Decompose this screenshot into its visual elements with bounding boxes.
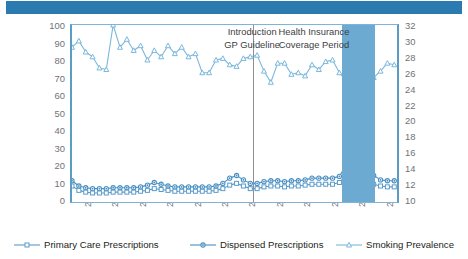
y-tick-left: 10 (39, 178, 65, 189)
annotation-insurance-line2: Coverage Period (264, 39, 364, 52)
y-tick-right: 30 (405, 36, 431, 47)
y-tick-left: 0 (39, 195, 65, 206)
y-tick-right: 22 (405, 100, 431, 111)
chart-legend: Primary Care PrescriptionsDispensed Pres… (0, 236, 468, 256)
annotation-insurance-line1: Health Insurance (264, 26, 364, 39)
y-tick-left: 70 (39, 73, 65, 84)
y-tick-left: 90 (39, 38, 65, 49)
legend-marker-square (14, 240, 40, 250)
y-tick-left: 50 (39, 108, 65, 119)
y-tick-left: 60 (39, 90, 65, 101)
y-tick-left: 40 (39, 125, 65, 136)
y-tick-right: 14 (405, 163, 431, 174)
legend-label: Smoking Prevalence (366, 239, 454, 250)
y-tick-right: 20 (405, 115, 431, 126)
legend-marker-triangle (336, 240, 362, 250)
y-tick-left: 20 (39, 160, 65, 171)
legend-marker-circle (190, 240, 216, 250)
highlight-band-insurance-period (342, 25, 375, 202)
y-tick-right: 18 (405, 131, 431, 142)
legend-item-dispensed-prescriptions[interactable]: Dispensed Prescriptions (190, 239, 323, 250)
y-tick-right: 26 (405, 68, 431, 79)
y-tick-left: 100 (39, 20, 65, 31)
y-tick-right: 32 (405, 20, 431, 31)
y-tick-right: 28 (405, 52, 431, 63)
legend-label: Dispensed Prescriptions (220, 239, 323, 250)
divider-line-gp-guideline (253, 25, 254, 202)
y-tick-right: 10 (405, 195, 431, 206)
y-tick-left: 30 (39, 143, 65, 154)
y-tick-right: 12 (405, 179, 431, 190)
annotation-insurance-period: Health Insurance Coverage Period (264, 26, 364, 51)
y-tick-left: 80 (39, 55, 65, 66)
legend-label: Primary Care Prescriptions (44, 239, 159, 250)
legend-item-primary-care-prescriptions[interactable]: Primary Care Prescriptions (14, 239, 159, 250)
y-tick-right: 16 (405, 147, 431, 158)
y-tick-right: 24 (405, 84, 431, 95)
header-band (6, 1, 462, 14)
chart-figure: Number of (dispensed) Prescriptions per … (0, 0, 468, 259)
legend-item-smoking-prevalence[interactable]: Smoking Prevalence (336, 239, 454, 250)
y-axis-right-label: Smoking Prevalence (%) (428, 0, 440, 16)
